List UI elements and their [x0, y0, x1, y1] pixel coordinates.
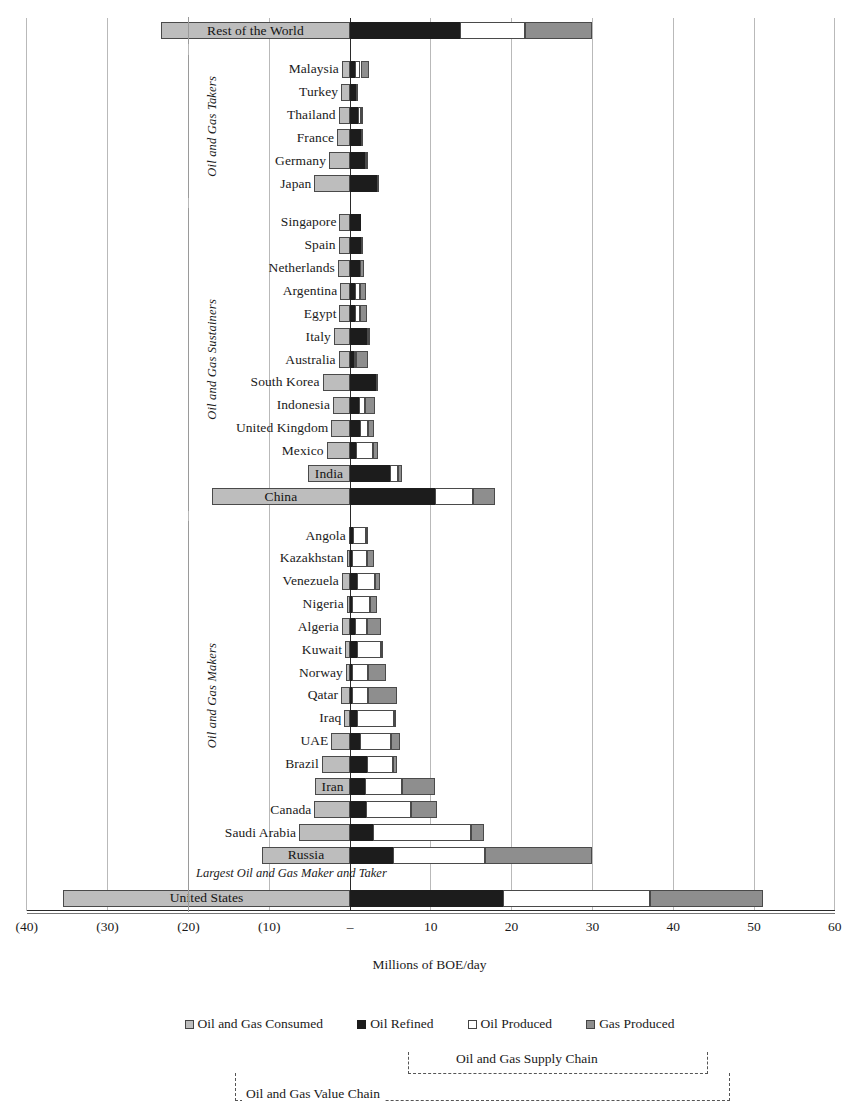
bar-row[interactable]: South Korea [0, 374, 859, 391]
segment-oil-produced [373, 824, 471, 841]
segment-oil-produced [357, 641, 380, 658]
bar-row[interactable]: France [0, 129, 859, 146]
segment-oil-refined [350, 129, 361, 146]
bar-row[interactable]: Indonesia [0, 397, 859, 414]
segment-gas-produced [473, 488, 495, 505]
segment-gas-produced [356, 351, 367, 368]
segment-gas-produced [402, 778, 435, 795]
segment-oil-gas-consumed [340, 283, 350, 300]
bar-row-label: India [308, 467, 350, 481]
bar-row[interactable]: Germany [0, 152, 859, 169]
bar-row[interactable]: Netherlands [0, 260, 859, 277]
bar-row[interactable]: United Kingdom [0, 420, 859, 437]
segment-gas-produced [375, 573, 380, 590]
bar-row[interactable]: Italy [0, 328, 859, 345]
bar-row[interactable]: China [0, 488, 859, 505]
x-tick-label: 60 [805, 919, 859, 935]
bar-row[interactable]: India [0, 465, 859, 482]
x-tick-label: – [320, 919, 380, 935]
bar-row[interactable]: Saudi Arabia [0, 824, 859, 841]
segment-gas-produced [381, 641, 383, 658]
bar-row[interactable]: Venezuela [0, 573, 859, 590]
bar-row[interactable]: Mexico [0, 442, 859, 459]
segment-oil-refined [350, 824, 373, 841]
segment-oil-refined [350, 328, 367, 345]
legend-item[interactable]: Oil and Gas Consumed [185, 1016, 324, 1032]
segment-oil-produced [435, 488, 473, 505]
segment-gas-produced [391, 733, 400, 750]
segment-oil-gas-consumed [341, 84, 350, 101]
bar-row-label: Netherlands [269, 261, 335, 275]
segment-gas-produced [366, 527, 368, 544]
bar-row[interactable]: Kuwait [0, 641, 859, 658]
bar-row[interactable]: Australia [0, 351, 859, 368]
segment-gas-produced [471, 824, 484, 841]
bar-row[interactable]: Thailand [0, 107, 859, 124]
x-tick-label: 10 [401, 919, 461, 935]
bar-row[interactable]: Kazakhstan [0, 550, 859, 567]
bar-row-label: Argentina [283, 284, 338, 298]
segment-gas-produced [373, 442, 378, 459]
segment-gas-produced [361, 129, 363, 146]
x-tick-label: (20) [158, 919, 218, 935]
segment-oil-refined [350, 152, 365, 169]
bar-row[interactable]: Turkey [0, 84, 859, 101]
bar-row[interactable]: Qatar [0, 687, 859, 704]
bar-row-label: Japan [280, 177, 311, 191]
segment-oil-gas-consumed [333, 397, 350, 414]
legend-swatch-oilprod [468, 1020, 477, 1029]
bar-row[interactable]: Norway [0, 664, 859, 681]
segment-oil-gas-consumed [339, 237, 350, 254]
legend-item[interactable]: Oil Refined [357, 1016, 433, 1032]
bar-row[interactable]: Iraq [0, 710, 859, 727]
bar-row[interactable]: Iran [0, 778, 859, 795]
segment-oil-produced [503, 890, 650, 907]
bar-row[interactable]: Rest of the World [0, 22, 859, 39]
segment-oil-produced [356, 442, 373, 459]
segment-gas-produced [368, 420, 374, 437]
bar-row-label: Rest of the World [161, 24, 350, 38]
legend-item[interactable]: Oil Produced [468, 1016, 553, 1032]
legend-item[interactable]: Gas Produced [586, 1016, 674, 1032]
segment-oil-gas-consumed [339, 107, 350, 124]
bar-row[interactable]: Russia [0, 847, 859, 864]
segment-oil-produced [460, 22, 525, 39]
bar-row[interactable]: Nigeria [0, 596, 859, 613]
group-label-makers: Oil and Gas Makers [205, 521, 220, 870]
segment-oil-refined [350, 22, 460, 39]
segment-oil-produced [352, 596, 371, 613]
segment-oil-produced [390, 465, 397, 482]
bar-row-label: Malaysia [289, 63, 339, 77]
bar-row[interactable]: Malaysia [0, 61, 859, 78]
segment-oil-refined [350, 374, 376, 391]
bar-row[interactable]: Argentina [0, 283, 859, 300]
segment-oil-gas-consumed [299, 824, 350, 841]
segment-gas-produced [367, 550, 374, 567]
segment-oil-refined [350, 710, 357, 727]
bar-row-label: Iran [315, 780, 350, 794]
bar-row-label: United Kingdom [236, 421, 329, 435]
segment-oil-gas-consumed [337, 129, 350, 146]
bar-row[interactable]: Japan [0, 175, 859, 192]
bar-row[interactable]: Spain [0, 237, 859, 254]
segment-gas-produced [367, 618, 382, 635]
bar-row-label: Russia [262, 849, 350, 863]
bar-row[interactable]: UAE [0, 733, 859, 750]
group-rule-row-rule [188, 17, 189, 44]
bar-row[interactable]: Singapore [0, 214, 859, 231]
bar-row[interactable]: Canada [0, 801, 859, 818]
bar-row[interactable]: Angola [0, 527, 859, 544]
bar-row[interactable]: Egypt [0, 305, 859, 322]
segment-gas-produced [394, 710, 396, 727]
segment-oil-refined [350, 214, 361, 231]
legend-label: Oil and Gas Consumed [198, 1016, 324, 1031]
bar-row[interactable]: Brazil [0, 756, 859, 773]
bar-row[interactable]: Algeria [0, 618, 859, 635]
legend-label: Gas Produced [599, 1016, 674, 1031]
segment-oil-refined [350, 488, 435, 505]
segment-gas-produced [360, 283, 366, 300]
group-rule-us-rule [188, 856, 189, 912]
bar-row[interactable]: United States [0, 890, 859, 907]
chart-legend: Oil and Gas ConsumedOil RefinedOil Produ… [0, 1016, 859, 1032]
group-label-takers-rule [188, 55, 189, 198]
